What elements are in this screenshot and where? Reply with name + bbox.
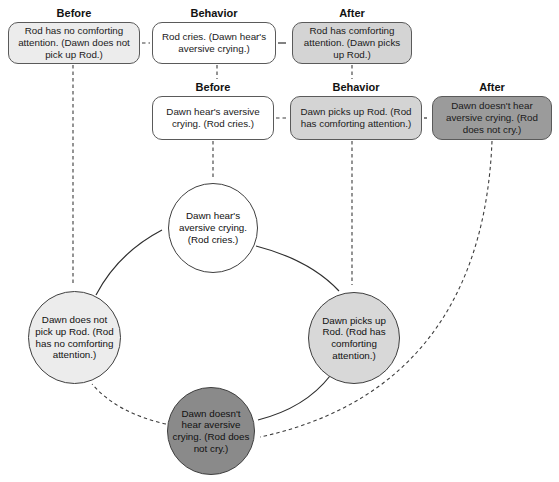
circle-pickup: Dawn picks up Rod. (Rod has comforting a… (308, 292, 400, 384)
diagram-canvas: Before Rod has no comforting attention. … (0, 0, 559, 482)
box-row1-before: Rod has no comforting attention. (Dawn d… (8, 22, 140, 64)
arrow-pickup-no-crying (258, 376, 330, 420)
circle-no-pickup: Dawn does not pick up Rod. (Rod has no c… (28, 291, 121, 384)
label-row1-behavior: Behavior (152, 6, 276, 20)
circle-no-crying: Dawn doesn't hear aversive crying. (Rod … (167, 387, 255, 475)
label-row1-before: Before (8, 6, 140, 20)
cell-row1-after: After Rod has comforting attention. (Daw… (292, 6, 412, 64)
arrow-no-crying-no-pickup (92, 384, 166, 424)
box-row2-behavior: Dawn picks up Rod. (Rod has comforting a… (290, 96, 422, 140)
arrow-aversive-pickup (256, 246, 339, 291)
cell-row1-before: Before Rod has no comforting attention. … (8, 6, 140, 64)
cell-row1-behavior: Behavior Rod cries. (Dawn hear's aversiv… (152, 6, 276, 64)
label-row2-before: Before (152, 80, 274, 94)
box-row1-behavior: Rod cries. (Dawn hear's aversive crying.… (152, 22, 276, 64)
arrow-after2-no-crying (260, 141, 492, 437)
cell-row2-before: Before Dawn hear's aversive crying. (Rod… (152, 80, 274, 140)
arrow-no-pickup-aversive (96, 230, 162, 295)
circle-aversive-crying: Dawn hear's aversive crying. (Rod cries.… (168, 183, 258, 273)
cell-row2-behavior: Behavior Dawn picks up Rod. (Rod has com… (290, 80, 422, 140)
label-row2-after: After (432, 80, 552, 94)
label-row2-behavior: Behavior (290, 80, 422, 94)
label-row1-after: After (292, 6, 412, 20)
box-row2-before: Dawn hear's aversive crying. (Rod cries.… (152, 96, 274, 140)
cell-row2-after: After Dawn doesn't hear aversive crying.… (432, 80, 552, 140)
box-row2-after: Dawn doesn't hear aversive crying. (Rod … (432, 96, 552, 140)
arrow-layer (0, 0, 559, 482)
box-row1-after: Rod has comforting attention. (Dawn pick… (292, 22, 412, 64)
